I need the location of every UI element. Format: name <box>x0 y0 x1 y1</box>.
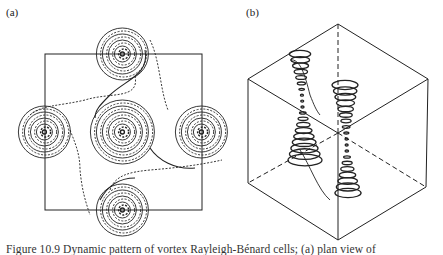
vortex-tube-ring <box>297 82 305 85</box>
vortex-ring <box>108 118 136 146</box>
vortex-tube-ring <box>293 63 309 69</box>
vortex-tube-ring <box>301 100 304 102</box>
vortex-ring <box>101 109 147 155</box>
vortex-tube-ring <box>345 144 348 146</box>
vortex-ring <box>120 130 124 134</box>
vortex-ring <box>199 130 203 134</box>
vortex-tube-ring <box>344 156 351 158</box>
vortex-ring <box>187 118 215 146</box>
vortex-tube-ring <box>341 119 351 123</box>
streamline <box>95 50 146 118</box>
streamline <box>110 160 222 190</box>
streamline <box>150 40 168 110</box>
vortex-tube-ring <box>301 106 304 108</box>
vortex-tube-ring <box>299 88 305 90</box>
vortex-ring <box>23 109 69 155</box>
panel-b-cube <box>248 24 428 240</box>
vortex-tube-ring <box>300 94 303 96</box>
streamline <box>30 76 136 115</box>
vortex-tube-ring <box>338 106 353 111</box>
vortex-tube-ring <box>344 132 349 134</box>
vortex-ring <box>186 115 220 149</box>
panel-a-plan-view <box>18 28 227 236</box>
vortex-tube-ring <box>339 113 352 118</box>
streamline <box>70 130 90 215</box>
vortex-ring <box>30 118 58 146</box>
vortex-tube-ring <box>297 122 310 127</box>
vortex-tube-ring <box>335 188 361 197</box>
vortex-ring <box>42 130 46 134</box>
vortex-ring <box>180 109 226 155</box>
streamline <box>150 148 195 168</box>
figure-caption: Figure 10.9 Dynamic pattern of vortex Ra… <box>6 243 376 255</box>
vortex-ring <box>107 115 141 149</box>
vortex-tube-ring <box>341 167 354 172</box>
vortex-tube-ring <box>345 138 348 140</box>
vortex-tube-ring <box>345 150 349 152</box>
vortex-ring <box>29 115 63 149</box>
vortex-ring <box>90 100 154 164</box>
vortex-tube-ring <box>298 117 308 120</box>
vortex-tube-ring <box>294 69 307 74</box>
vortex-tube-ring <box>342 161 352 165</box>
